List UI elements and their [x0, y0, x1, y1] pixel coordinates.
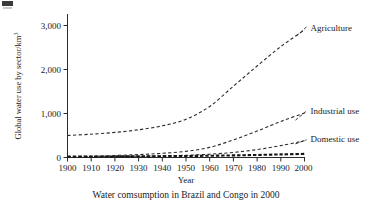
x-tick-label-1950: 1950 [177, 163, 196, 173]
y-tick-label-1000: 1,000 [41, 109, 62, 119]
series-label-domestic-use: Domestic use [311, 134, 360, 144]
y-tick-label-2000: 2,000 [41, 65, 62, 75]
x-tick-label-1960: 1960 [201, 163, 220, 173]
chart-svg: 0 1,000 2,000 3,000 Global water use by … [0, 0, 368, 203]
svg-text:Global water use by sector/km3: Global water use by sector/km3 [13, 33, 23, 140]
figure-container: 0 1,000 2,000 3,000 Global water use by … [0, 0, 368, 203]
x-tick-label-1910: 1910 [82, 163, 101, 173]
leader-line-agriculture [297, 27, 307, 36]
series-curve-agriculture-final [68, 30, 305, 136]
x-tick-label-1990: 1990 [272, 163, 291, 173]
x-tick-label-1900: 1900 [59, 163, 78, 173]
y-tick-label-0: 0 [57, 153, 62, 163]
x-tick-label-1980: 1980 [248, 163, 267, 173]
x-axis-ticks [68, 158, 305, 162]
y-axis-title-text: Global water use by sector/km [13, 35, 23, 139]
x-tick-label-1930: 1930 [130, 163, 149, 173]
y-tick-label-3000: 3,000 [41, 21, 62, 31]
x-tick-label-1940: 1940 [153, 163, 172, 173]
x-tick-label-1920: 1920 [106, 163, 125, 173]
figure-caption: Water comsumption in Brazil and Congo in… [93, 190, 280, 200]
series-label-industrial-use: Industrial use [311, 106, 360, 116]
y-axis-ticks [64, 26, 68, 158]
x-tick-label-1970: 1970 [224, 163, 243, 173]
x-tick-label-2000: 2000 [295, 163, 314, 173]
x-axis-title: Year [178, 175, 195, 185]
series-label-agriculture: Agriculture [311, 23, 352, 33]
page-corner-artifact [2, 1, 13, 6]
y-axis-title: Global water use by sector/km3 [13, 33, 23, 140]
y-axis-title-superscript: 3 [13, 33, 19, 36]
